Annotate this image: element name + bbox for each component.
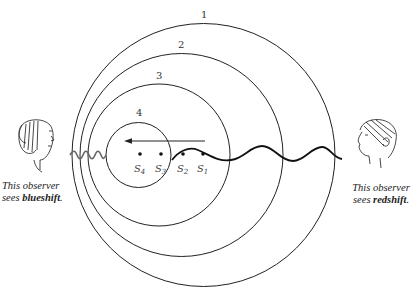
right-observer-face-icon — [358, 119, 396, 168]
left-observer-caption: This observer sees blueshift. — [2, 180, 58, 204]
source-label-s2: S2 — [177, 163, 189, 176]
right-caption-line1: This observer — [352, 182, 410, 194]
wavefront-label-2: 2 — [178, 39, 184, 50]
wavefront-label-3: 3 — [156, 70, 162, 81]
right-caption-line2: sees redshift. — [352, 194, 410, 206]
source-label-s4: S4 — [134, 163, 145, 176]
source-label-s3: S3 — [155, 163, 167, 176]
left-caption-line2: sees blueshift. — [2, 192, 58, 204]
source-points — [138, 152, 205, 156]
wavefront-2 — [80, 54, 283, 257]
wavefront-label-4: 4 — [136, 107, 142, 118]
left-caption-line1: This observer — [2, 180, 58, 192]
wavefront-label-1: 1 — [201, 9, 207, 20]
motion-arrow-icon — [124, 138, 205, 144]
source-label-s1: S1 — [197, 163, 208, 176]
right-observer-caption: This observer sees redshift. — [352, 182, 410, 206]
source-s4 — [138, 152, 142, 156]
source-s3 — [159, 152, 163, 156]
left-observer-face-icon — [19, 120, 54, 172]
doppler-diagram: 1 2 3 4 S4 S3 S2 S1 — [0, 0, 411, 291]
redshift-term: redshift — [373, 194, 406, 205]
blueshift-term: blueshift — [22, 192, 60, 203]
source-s2 — [181, 152, 185, 156]
redshift-wave — [172, 146, 342, 161]
